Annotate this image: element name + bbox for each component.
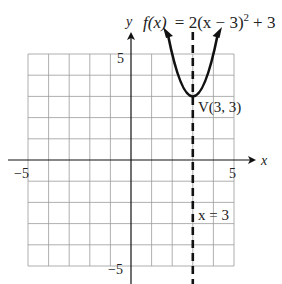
y-min-label: −5 bbox=[108, 262, 123, 277]
x-axis-label: x bbox=[260, 153, 268, 168]
vertex-label: V(3, 3) bbox=[198, 99, 241, 116]
function-title: f(x) = 2(x − 3)2+ 3 bbox=[143, 11, 275, 32]
y-max-label: 5 bbox=[117, 51, 124, 66]
x-max-label: 5 bbox=[229, 166, 236, 181]
x-min-label: −5 bbox=[14, 166, 29, 181]
y-axis-label: y bbox=[124, 14, 133, 29]
axis-of-symmetry-label: x = 3 bbox=[198, 207, 229, 223]
graph: y f(x) = 2(x − 3)2+ 3 5 −5 −5 5 x V(3, 3… bbox=[0, 0, 282, 284]
